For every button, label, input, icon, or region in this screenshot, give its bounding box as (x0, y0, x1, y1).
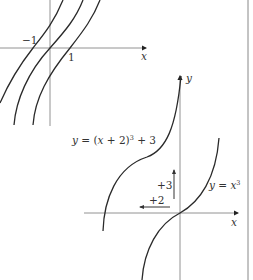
figure-canvas: x −1 1 y x +3 +2 y = (x + 2)3 + 3 y = x3 (0, 0, 253, 280)
base-curve-label: y = x3 (208, 179, 240, 191)
shifted-curve-label: y = (x + 2)3 + 3 (71, 134, 156, 146)
horizontal-shift-label: +2 (149, 194, 164, 206)
top-x-axis-label: x (141, 50, 147, 62)
curve-shift-left (0, 0, 63, 103)
tick-label-neg1: −1 (22, 34, 37, 46)
curve-shifted-cubic (103, 76, 181, 231)
bottom-graph: y x +3 +2 y = (x + 2)3 + 3 y = x3 (71, 72, 240, 280)
vertical-shift-label: +3 (157, 179, 172, 191)
bottom-y-axis-label: y (185, 72, 193, 84)
curve-base-cubic (142, 138, 219, 280)
tick-label-1: 1 (68, 51, 75, 63)
top-graph: x −1 1 (0, 0, 147, 126)
curve-shift-right (33, 0, 100, 125)
bottom-x-axis-label: x (231, 216, 237, 228)
